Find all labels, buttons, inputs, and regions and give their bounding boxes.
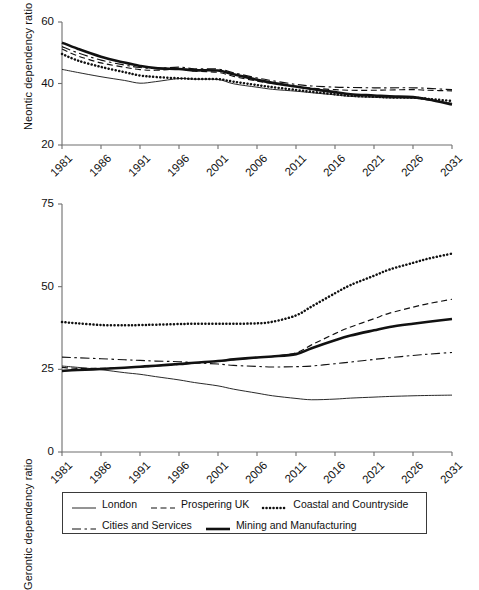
chart-panel-neontic: Neontic dependency ratio 204060198119861…: [0, 0, 479, 185]
legend-swatch-cities-icon: [71, 520, 97, 530]
legend-swatch-coastal-icon: [262, 499, 288, 509]
legend-label-mining: Mining and Manufacturing: [236, 519, 357, 531]
chart-panel-gerontic: Gerontic dependency ratio 02550751981198…: [0, 190, 479, 485]
series-line-mining-and-manufacturing: [62, 43, 452, 105]
legend-item-mining[interactable]: Mining and Manufacturing: [205, 519, 357, 531]
y-tick-label: 0: [28, 445, 54, 457]
legend-item-cities[interactable]: Cities and Services: [71, 519, 192, 531]
y-tick-label: 25: [28, 362, 54, 374]
legend-row: Cities and ServicesMining and Manufactur…: [63, 514, 426, 535]
legend-row: LondonProspering UKCoastal and Countrysi…: [63, 493, 426, 514]
legend-label-cities: Cities and Services: [102, 519, 192, 531]
y-tick-label: 50: [28, 280, 54, 292]
chart-legend: LondonProspering UKCoastal and Countrysi…: [62, 492, 427, 534]
y-tick-label: 20: [28, 138, 54, 150]
legend-swatch-mining-icon: [205, 520, 231, 530]
series-line-mining-and-manufacturing: [62, 319, 452, 371]
legend-item-prospering[interactable]: Prospering UK: [150, 498, 249, 510]
series-line-cities-and-services: [62, 47, 452, 90]
series-line-coastal-and-countryside: [62, 254, 452, 326]
y-tick-label: 75: [28, 197, 54, 209]
y-tick-label: 60: [28, 15, 54, 27]
legend-swatch-prospering-icon: [150, 499, 176, 509]
plot-area-gerontic: [0, 190, 479, 485]
y-tick-label: 40: [28, 77, 54, 89]
legend-label-prospering: Prospering UK: [181, 498, 249, 510]
legend-swatch-london-icon: [71, 499, 97, 509]
series-line-cities-and-services: [62, 352, 452, 367]
legend-label-london: London: [102, 498, 137, 510]
legend-item-coastal[interactable]: Coastal and Countryside: [262, 498, 408, 510]
legend-label-coastal: Coastal and Countryside: [293, 498, 408, 510]
series-line-london: [62, 366, 452, 400]
legend-item-london[interactable]: London: [71, 498, 137, 510]
